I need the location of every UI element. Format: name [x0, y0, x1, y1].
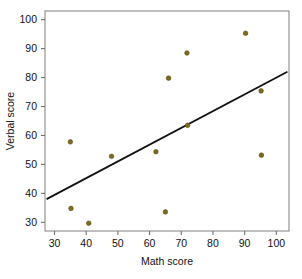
y-tick-label: 30 — [25, 216, 37, 228]
y-tick-label: 70 — [25, 100, 37, 112]
data-point — [109, 154, 114, 159]
x-tick-label: 90 — [239, 237, 251, 249]
data-point — [69, 206, 74, 211]
y-tick-label: 50 — [25, 158, 37, 170]
scatter-plot-figure: 3040506070809010030405060708090100Math s… — [0, 0, 302, 279]
trend-line — [47, 72, 288, 199]
x-axis-title: Math score — [141, 255, 193, 267]
x-tick-label: 40 — [80, 237, 92, 249]
y-tick-label: 100 — [19, 13, 37, 25]
y-tick-label: 90 — [25, 42, 37, 54]
y-tick-label: 60 — [25, 129, 37, 141]
data-point — [163, 210, 168, 215]
plot-area-border — [45, 11, 289, 231]
data-point — [86, 221, 91, 226]
data-point — [166, 76, 171, 81]
data-point — [185, 51, 190, 56]
y-tick-label: 40 — [25, 187, 37, 199]
plot-canvas: 3040506070809010030405060708090100Math s… — [0, 0, 302, 279]
x-tick-label: 100 — [268, 237, 286, 249]
x-tick-label: 50 — [112, 237, 124, 249]
data-point — [243, 31, 248, 36]
data-point — [185, 123, 190, 128]
y-axis-title: Verbal score — [4, 92, 16, 151]
data-point — [259, 153, 264, 158]
x-tick-label: 30 — [49, 237, 61, 249]
x-tick-label: 70 — [175, 237, 187, 249]
y-tick-label: 80 — [25, 71, 37, 83]
x-tick-label: 80 — [207, 237, 219, 249]
data-point — [154, 149, 159, 154]
x-tick-label: 60 — [144, 237, 156, 249]
data-point — [68, 140, 73, 145]
data-point — [259, 89, 264, 94]
